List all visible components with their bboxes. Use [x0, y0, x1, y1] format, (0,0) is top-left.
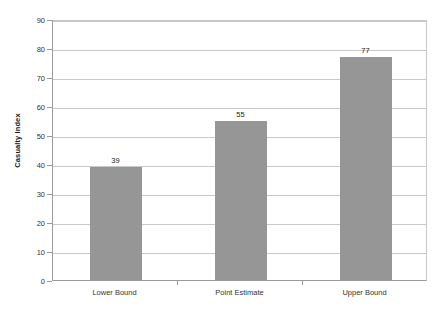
y-tick-label: 70	[19, 74, 45, 83]
y-tick-label: 90	[19, 16, 45, 25]
x-tick-mark	[177, 281, 178, 285]
x-tick-label: Point Estimate	[215, 288, 263, 297]
y-tick-label: 40	[19, 161, 45, 170]
bar	[215, 121, 267, 281]
x-tick-label: Lower Bound	[92, 288, 136, 297]
y-tick-label: 80	[19, 45, 45, 54]
x-tick-mark	[302, 281, 303, 285]
y-tick-label: 30	[19, 190, 45, 199]
bar-value-label: 55	[236, 110, 244, 119]
y-tick-label: 50	[19, 132, 45, 141]
bar-band: 55	[178, 21, 303, 280]
bar-chart: Casualty Index 0102030405060708090 39557…	[0, 0, 447, 313]
plot-area: 395577	[52, 20, 427, 281]
y-tick-label: 10	[19, 248, 45, 257]
bar-value-label: 77	[361, 46, 369, 55]
y-tick-mark	[47, 281, 52, 282]
bar	[90, 167, 142, 280]
x-tick-label: Upper Bound	[342, 288, 386, 297]
y-axis-title: Casualty Index	[4, 0, 30, 281]
y-tick-label: 60	[19, 103, 45, 112]
bar-band: 77	[303, 21, 428, 280]
bar	[340, 57, 392, 280]
y-tick-label: 0	[19, 277, 45, 286]
bar-value-label: 39	[111, 156, 119, 165]
bar-band: 39	[53, 21, 178, 280]
y-tick-label: 20	[19, 219, 45, 228]
